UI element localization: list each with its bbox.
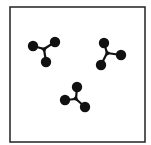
atom-circle bbox=[50, 37, 60, 47]
molecule-3 bbox=[60, 82, 90, 112]
atom-circle bbox=[80, 102, 90, 112]
atom-circle bbox=[60, 95, 70, 105]
molecule-1 bbox=[28, 37, 60, 67]
atom-circle bbox=[99, 38, 109, 48]
center-triangle bbox=[72, 95, 79, 101]
atom-circle bbox=[96, 60, 106, 70]
frame-border bbox=[10, 7, 145, 142]
diagram-canvas bbox=[0, 0, 151, 145]
atom-circle bbox=[41, 57, 51, 67]
atom-circle bbox=[116, 50, 126, 60]
center-triangle bbox=[105, 49, 111, 56]
atom-circle bbox=[28, 41, 38, 51]
molecule-2 bbox=[96, 38, 126, 70]
molecules-group bbox=[28, 37, 126, 112]
atom-circle bbox=[72, 82, 82, 92]
